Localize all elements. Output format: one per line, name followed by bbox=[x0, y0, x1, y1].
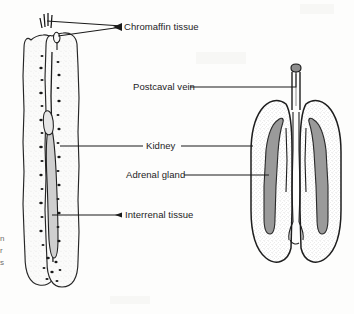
left-specimen bbox=[23, 13, 79, 287]
leader-chromaffin-lower bbox=[58, 27, 122, 36]
interrenal-node-upper bbox=[43, 111, 53, 135]
page-edge-text-fragment: n r s bbox=[0, 233, 4, 269]
postcaval-vein-collar bbox=[291, 64, 301, 72]
arrowhead-chromaffin bbox=[113, 23, 122, 31]
leader-arrowheads bbox=[113, 23, 122, 218]
edge-fragment-line-1: n bbox=[0, 233, 4, 245]
arrowhead-interrenal bbox=[115, 213, 122, 218]
anatomy-figure bbox=[0, 0, 354, 314]
label-kidney: Kidney bbox=[146, 141, 175, 151]
chromaffin-apex-marks bbox=[40, 13, 52, 28]
label-interrenal-tissue: Interrenal tissue bbox=[125, 210, 193, 220]
label-adrenal-gland: Adrenal gland bbox=[126, 170, 185, 180]
edge-fragment-line-2: r bbox=[0, 245, 4, 257]
label-postcaval-vein: Postcaval vein bbox=[133, 82, 195, 92]
right-specimen bbox=[251, 64, 341, 262]
leader-postcaval bbox=[190, 72, 296, 87]
edge-fragment-line-3: s bbox=[0, 257, 4, 269]
leader-chromaffin-upper bbox=[47, 21, 122, 26]
chromaffin-apex-loop bbox=[54, 32, 61, 42]
label-chromaffin-tissue: Chromaffin tissue bbox=[124, 22, 199, 32]
